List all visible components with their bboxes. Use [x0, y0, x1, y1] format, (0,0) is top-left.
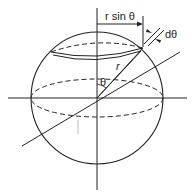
d-theta-arrow-bottom-icon: [155, 39, 161, 43]
theta-label: θ: [100, 76, 106, 88]
r-sin-theta-label: r sin θ: [105, 10, 135, 22]
radius-line-2: [97, 51, 141, 98]
d-theta-label: dθ: [165, 28, 177, 40]
diagonal-axis: [22, 52, 180, 146]
arrowhead-icon: [137, 22, 143, 27]
r-label: r: [116, 60, 121, 72]
d-theta-arrow-top-icon: [146, 29, 152, 33]
sphere-diagram: r sin θ dθ r θ: [0, 0, 194, 196]
